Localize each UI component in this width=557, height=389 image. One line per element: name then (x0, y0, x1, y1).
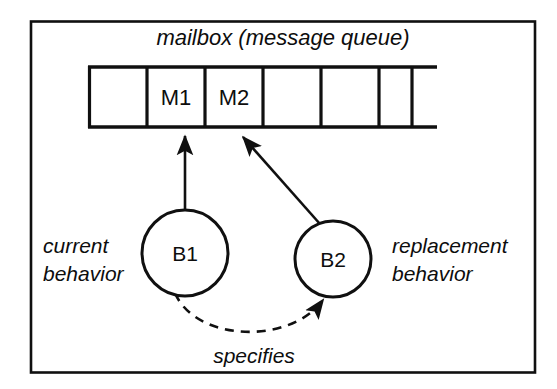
diagram-root: mailbox (message queue) M1 M2 (0, 0, 557, 389)
queue-cell-1-label: M1 (161, 85, 192, 110)
diagram-frame (31, 22, 535, 373)
caption-current-behavior-line1: current (43, 234, 110, 257)
caption-replacement-behavior-line1: replacement (392, 234, 509, 257)
caption-current-behavior-line2: behavior (43, 262, 125, 285)
caption-replacement-behavior: replacement behavior (392, 234, 509, 285)
arrow-b1-to-b2-specifies (175, 293, 323, 332)
node-b2[interactable]: B2 (295, 221, 371, 297)
caption-current-behavior: current behavior (43, 234, 125, 285)
node-b1-label: B1 (172, 242, 198, 265)
node-b1[interactable]: B1 (142, 210, 228, 296)
diagram-canvas: mailbox (message queue) M1 M2 (0, 0, 557, 389)
caption-replacement-behavior-line2: behavior (392, 262, 474, 285)
queue-cell-2-label: M2 (219, 85, 250, 110)
queue-title: mailbox (message queue) (156, 25, 409, 50)
arrow-b2-to-m2 (243, 137, 320, 224)
node-b2-label: B2 (320, 248, 346, 271)
edge-label-specifies: specifies (213, 344, 295, 367)
message-queue: M1 M2 (88, 66, 437, 128)
